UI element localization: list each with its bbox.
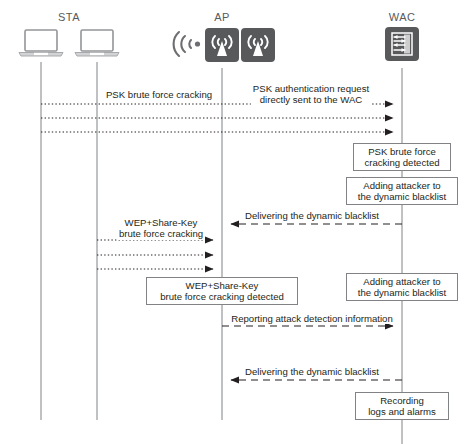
access-point-icon [167, 26, 277, 64]
laptop-icon [74, 28, 120, 58]
laptop-icon [18, 28, 64, 58]
action-box-b4: WEP+Share-Key brute force cracking detec… [146, 277, 298, 305]
message-label-m1: PSK brute force cracking [104, 89, 214, 100]
participant-label-wac: WAC [389, 11, 415, 23]
participant-label-sta: STA [58, 11, 80, 23]
message-label-m10: Delivering the dynamic blacklist [243, 366, 381, 377]
sequence-diagram: STA AP WAC PSK brute force crackingPSK a… [0, 0, 473, 444]
message-label-m2: PSK authentication request directly sent… [251, 83, 371, 106]
lifelines-group [41, 62, 402, 444]
participant-label-ap: AP [214, 11, 229, 23]
wireless-access-controller-icon [383, 26, 421, 64]
message-label-m9: Reporting attack detection information [229, 313, 395, 324]
message-label-m6: WEP+Share-Key brute force cracking [117, 217, 205, 240]
action-box-b5: Recording logs and alarms [355, 392, 449, 420]
sequence-diagram-canvas [0, 0, 473, 444]
message-label-m5: Delivering the dynamic blacklist [243, 210, 381, 221]
action-box-b3: Adding attacker to the dynamic blacklist [346, 273, 458, 301]
action-box-b2: Adding attacker to the dynamic blacklist [346, 177, 458, 205]
action-box-b1: PSK brute force cracking detected [353, 143, 451, 171]
